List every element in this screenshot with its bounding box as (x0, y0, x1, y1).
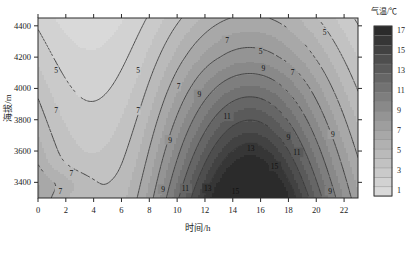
contour-label: 7 (225, 36, 229, 45)
y-tick-label: 3400 (14, 177, 31, 187)
colorbar-band (374, 45, 392, 55)
colorbar-tick-label: 3 (397, 166, 401, 175)
x-tick-label: 20 (312, 205, 321, 215)
x-tick-label: 4 (92, 205, 97, 215)
contour-label: 11 (293, 148, 300, 157)
colorbar-tick-label: 13 (397, 66, 405, 75)
contour-label: 9 (161, 185, 165, 194)
colorbar-band (374, 35, 392, 45)
x-tick-label: 22 (340, 205, 349, 215)
colorbar-tick-label: 7 (397, 126, 401, 135)
y-tick-label: 4400 (14, 21, 31, 31)
contour-label: 9 (168, 136, 172, 145)
contour-label: 15 (271, 162, 279, 171)
colorbar-band (374, 54, 392, 64)
colorbar-tick-label: 1 (397, 186, 401, 195)
x-tick-label: 10 (173, 205, 182, 215)
contour-label: 13 (204, 184, 212, 193)
colorbar-band (374, 26, 392, 36)
contour-label: 7 (54, 106, 58, 115)
colorbar-band (374, 73, 392, 83)
chart-svg: 5555777777799999991111111313151502468101… (0, 0, 415, 260)
colorbar (374, 26, 392, 196)
contour-chart-figure: 5555777777799999991111111313151502468101… (0, 0, 415, 260)
x-tick-label: 12 (201, 205, 210, 215)
x-tick-label: 14 (229, 205, 238, 215)
x-tick-label: 16 (256, 205, 265, 215)
colorbar-tick-label: 9 (397, 106, 401, 115)
contour-label: 7 (291, 68, 295, 77)
colorbar-band (374, 64, 392, 74)
x-tick-label: 0 (36, 205, 40, 215)
colorbar-band (374, 149, 392, 159)
colorbar-band (374, 139, 392, 149)
colorbar-band (374, 187, 392, 197)
colorbar-band (374, 102, 392, 112)
y-axis-title: 海拔/m (2, 94, 13, 122)
contour-label: 9 (198, 90, 202, 99)
colorbar-band (374, 120, 392, 130)
y-tick-label: 3600 (14, 146, 31, 156)
contour-label: 5 (323, 28, 327, 37)
colorbar-tick-label: 15 (397, 46, 405, 55)
contour-label: 7 (177, 82, 181, 91)
contour-label: 7 (70, 169, 74, 178)
colorbar-band (374, 177, 392, 187)
contour-label: 5 (259, 47, 263, 56)
contour-label: 9 (262, 64, 266, 73)
y-tick-label: 4200 (14, 52, 31, 62)
contour-label: 7 (58, 187, 62, 196)
contour-label: 9 (328, 187, 332, 196)
contour-label: 11 (182, 184, 189, 193)
colorbar-band (374, 111, 392, 121)
colorbar-band (374, 158, 392, 168)
contour-label: 9 (331, 130, 335, 139)
colorbar-tick-label: 17 (397, 26, 405, 35)
contour-label: 5 (54, 66, 58, 75)
colorbar-band (374, 130, 392, 140)
colorbar-tick-label: 5 (397, 146, 401, 155)
colorbar-title: 气温/℃ (371, 6, 397, 16)
x-axis-title: 时间/h (185, 222, 211, 233)
contour-label: 5 (136, 66, 140, 75)
x-tick-label: 18 (284, 205, 293, 215)
contour-label: 7 (136, 106, 140, 115)
y-tick-label: 4000 (14, 83, 31, 93)
contour-label: 15 (232, 187, 240, 196)
colorbar-band (374, 83, 392, 93)
contour-label: 9 (287, 133, 291, 142)
x-tick-label: 2 (64, 205, 68, 215)
colorbar-band (374, 92, 392, 102)
filled-bands (38, 18, 358, 198)
y-tick-label: 3800 (14, 115, 31, 125)
contour-label: 11 (224, 112, 231, 121)
colorbar-band (374, 168, 392, 178)
x-tick-label: 6 (119, 205, 123, 215)
colorbar-tick-label: 11 (397, 86, 405, 95)
contour-label: 13 (247, 144, 255, 153)
x-tick-label: 8 (147, 205, 151, 215)
